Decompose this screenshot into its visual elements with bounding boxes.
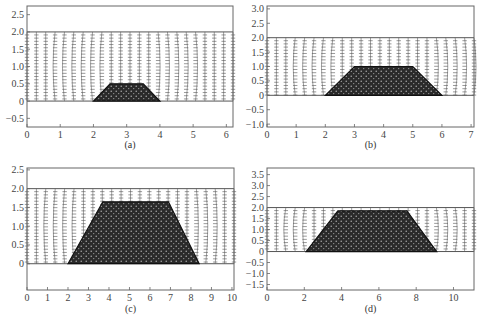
x-tick-label: 2 [323, 129, 328, 140]
y-tick-label: 0 [259, 90, 264, 101]
y-tick-label: 0.5 [12, 78, 25, 89]
panel-d: −1.5−1.0−0.500.51.01.52.02.53.03.5024681… [246, 168, 476, 315]
x-tick-label: 6 [224, 129, 229, 140]
x-tick-label: 4 [381, 129, 386, 140]
y-tick-label: 3.5 [252, 169, 265, 180]
x-tick-label: 2 [91, 129, 96, 140]
x-tick-label: 0 [25, 129, 30, 140]
y-tick-label: 2.0 [12, 26, 25, 37]
y-tick-label: 1.0 [252, 224, 265, 235]
y-tick-label: 3.0 [252, 3, 265, 14]
x-tick-label: 0 [25, 292, 30, 303]
y-tick-label: 2.5 [12, 164, 25, 175]
y-tick-label: 1.0 [252, 61, 265, 72]
x-tick-label: 8 [188, 292, 193, 303]
y-tick-label: 1.0 [12, 61, 25, 72]
x-tick-label: 3 [86, 292, 91, 303]
y-tick-label: −1.0 [246, 268, 264, 279]
x-tick-label: 5 [127, 292, 132, 303]
x-tick-label: 1 [58, 129, 63, 140]
x-tick-label: 9 [209, 292, 214, 303]
y-tick-label: 2.5 [252, 18, 265, 29]
x-tick-label: 0 [265, 292, 270, 303]
x-tick-label: 1 [294, 129, 299, 140]
y-tick-label: 3.0 [252, 180, 265, 191]
x-tick-label: 7 [469, 129, 474, 140]
x-tick-label: 6 [376, 292, 381, 303]
x-tick-label: 10 [448, 292, 458, 303]
x-tick-label: 10 [227, 292, 237, 303]
y-tick-label: 1.5 [252, 213, 265, 224]
y-tick-label: −0.5 [246, 104, 264, 115]
y-tick-label: −0.5 [6, 113, 24, 124]
x-tick-label: 2 [302, 292, 307, 303]
panel-caption: (c) [125, 303, 136, 315]
trapezoid-obstacle [325, 67, 442, 96]
y-tick-label: 1.5 [12, 202, 25, 213]
figure: −0.500.51.01.52.02.50123456(a) −1.0−0.50… [0, 0, 482, 326]
y-tick-label: 0 [19, 96, 24, 107]
y-tick-label: 1.5 [12, 44, 25, 55]
x-tick-label: 4 [339, 292, 344, 303]
y-tick-label: 2.0 [252, 32, 265, 43]
y-tick-label: 2.5 [252, 191, 265, 202]
y-tick-label: 0 [259, 246, 264, 257]
panel-caption: (d) [365, 303, 377, 315]
y-tick-label: 0.5 [252, 235, 265, 246]
x-tick-label: 6 [147, 292, 152, 303]
panel-caption: (a) [124, 139, 135, 151]
x-tick-label: 5 [191, 129, 196, 140]
y-tick-label: −0.5 [246, 257, 264, 268]
y-tick-label: 2.5 [12, 9, 25, 20]
y-tick-label: 1.0 [12, 221, 25, 232]
y-tick-label: −1.0 [246, 119, 264, 130]
y-tick-label: 2.0 [12, 183, 25, 194]
y-tick-label: 0.5 [252, 75, 265, 86]
x-tick-label: 6 [439, 129, 444, 140]
y-tick-label: 2.0 [252, 202, 265, 213]
panel-caption: (b) [365, 139, 377, 151]
x-tick-label: 2 [65, 292, 70, 303]
x-tick-label: 8 [414, 292, 419, 303]
y-tick-label: 1.5 [252, 47, 265, 58]
x-tick-label: 4 [106, 292, 111, 303]
x-tick-label: 0 [265, 129, 270, 140]
x-tick-label: 4 [157, 129, 162, 140]
x-tick-label: 5 [410, 129, 415, 140]
panel-c: 00.51.01.52.02.5012345678910(c) [12, 164, 237, 315]
x-tick-label: 1 [45, 292, 50, 303]
y-tick-label: 0.5 [12, 239, 25, 250]
panel-a: −0.500.51.01.52.02.50123456(a) [6, 6, 235, 151]
panel-b: −1.0−0.500.51.01.52.02.53.001234567(b) [246, 3, 476, 151]
y-tick-label: 0 [19, 258, 24, 269]
y-tick-label: −1.5 [246, 279, 264, 290]
x-tick-label: 3 [352, 129, 357, 140]
x-tick-label: 7 [168, 292, 173, 303]
